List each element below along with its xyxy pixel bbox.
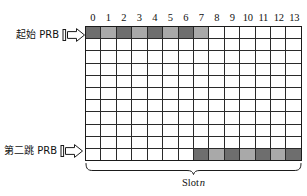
grid-cell-r7-c13 bbox=[286, 112, 300, 123]
grid-cell-r1-c13 bbox=[286, 39, 300, 50]
column-header-row: 0 1 2 3 4 5 6 7 8 9 10 11 12 13 bbox=[85, 11, 302, 25]
grid-cell-r0-c11 bbox=[256, 27, 271, 38]
grid-cell-r4-c3 bbox=[132, 76, 147, 87]
grid-cell-r6-c7 bbox=[194, 100, 209, 111]
grid-cell-r0-c8 bbox=[209, 27, 224, 38]
grid-cell-r3-c6 bbox=[179, 64, 194, 75]
grid-cell-r4-c9 bbox=[225, 76, 240, 87]
grid-row bbox=[86, 125, 301, 137]
grid-row bbox=[86, 27, 301, 39]
column-header-5: 5 bbox=[163, 11, 179, 25]
grid-cell-r8-c12 bbox=[271, 125, 286, 136]
grid-cell-r5-c1 bbox=[101, 88, 116, 99]
grid-cell-r4-c4 bbox=[148, 76, 163, 87]
grid-cell-r3-c12 bbox=[271, 64, 286, 75]
grid-cell-r9-c1 bbox=[101, 137, 116, 148]
grid-cell-r9-c7 bbox=[194, 137, 209, 148]
right-arrow-marker-icon bbox=[62, 27, 86, 43]
grid-cell-r0-c0 bbox=[86, 27, 101, 38]
grid-cell-r5-c8 bbox=[209, 88, 224, 99]
start-prb-label: 起始 PRB bbox=[16, 29, 59, 41]
grid-cell-r2-c4 bbox=[148, 51, 163, 62]
grid-cell-r1-c3 bbox=[132, 39, 147, 50]
grid-cell-r8-c10 bbox=[240, 125, 255, 136]
slot-caption-prefix: Slot bbox=[182, 177, 199, 188]
grid-cell-r6-c9 bbox=[225, 100, 240, 111]
grid-cell-r4-c5 bbox=[163, 76, 178, 87]
grid-cell-r0-c13 bbox=[286, 27, 300, 38]
grid-cell-r0-c10 bbox=[240, 27, 255, 38]
column-header-10: 10 bbox=[240, 11, 256, 25]
grid-cell-r2-c5 bbox=[163, 51, 178, 62]
grid-cell-r6-c8 bbox=[209, 100, 224, 111]
grid-cell-r8-c11 bbox=[256, 125, 271, 136]
grid-cell-r6-c12 bbox=[271, 100, 286, 111]
grid-cell-r4-c11 bbox=[256, 76, 271, 87]
grid-cell-r2-c0 bbox=[86, 51, 101, 62]
grid-cell-r10-c4 bbox=[148, 149, 163, 160]
grid-cell-r1-c7 bbox=[194, 39, 209, 50]
grid-cell-r2-c6 bbox=[179, 51, 194, 62]
grid-cell-r9-c12 bbox=[271, 137, 286, 148]
grid-cell-r7-c11 bbox=[256, 112, 271, 123]
grid-cell-r6-c3 bbox=[132, 100, 147, 111]
grid-cell-r7-c10 bbox=[240, 112, 255, 123]
grid-cell-r10-c5 bbox=[163, 149, 178, 160]
grid-cell-r0-c1 bbox=[101, 27, 116, 38]
bottom-brace-icon bbox=[85, 163, 302, 175]
grid-cell-r0-c6 bbox=[179, 27, 194, 38]
grid-cell-r10-c0 bbox=[86, 149, 101, 160]
grid-cell-r2-c12 bbox=[271, 51, 286, 62]
grid-cell-r2-c3 bbox=[132, 51, 147, 62]
grid-cell-r0-c12 bbox=[271, 27, 286, 38]
grid-cell-r1-c10 bbox=[240, 39, 255, 50]
grid-cell-r8-c6 bbox=[179, 125, 194, 136]
grid-row bbox=[86, 88, 301, 100]
grid-cell-r8-c13 bbox=[286, 125, 300, 136]
grid-cell-r6-c5 bbox=[163, 100, 178, 111]
grid-cell-r5-c0 bbox=[86, 88, 101, 99]
grid-cell-r7-c0 bbox=[86, 112, 101, 123]
grid-cell-r3-c1 bbox=[101, 64, 116, 75]
grid-cell-r10-c13 bbox=[286, 149, 300, 160]
grid-cell-r1-c6 bbox=[179, 39, 194, 50]
grid-row bbox=[86, 51, 301, 63]
grid-cell-r2-c13 bbox=[286, 51, 300, 62]
second-hop-prb-label: 第二跳 PRB bbox=[4, 145, 57, 157]
grid-cell-r3-c2 bbox=[117, 64, 132, 75]
grid-cell-r6-c1 bbox=[101, 100, 116, 111]
grid-cell-r7-c1 bbox=[101, 112, 116, 123]
grid-cell-r4-c8 bbox=[209, 76, 224, 87]
grid-cell-r4-c12 bbox=[271, 76, 286, 87]
grid-cell-r3-c8 bbox=[209, 64, 224, 75]
grid-cell-r5-c4 bbox=[148, 88, 163, 99]
grid-cell-r2-c7 bbox=[194, 51, 209, 62]
resource-grid bbox=[85, 26, 302, 161]
grid-cell-r5-c11 bbox=[256, 88, 271, 99]
grid-cell-r6-c11 bbox=[256, 100, 271, 111]
grid-cell-r10-c2 bbox=[117, 149, 132, 160]
grid-cell-r4-c7 bbox=[194, 76, 209, 87]
grid-cell-r8-c8 bbox=[209, 125, 224, 136]
grid-cell-r3-c0 bbox=[86, 64, 101, 75]
grid-cell-r10-c12 bbox=[271, 149, 286, 160]
grid-cell-r10-c1 bbox=[101, 149, 116, 160]
grid-cell-r5-c12 bbox=[271, 88, 286, 99]
grid-cell-r8-c5 bbox=[163, 125, 178, 136]
grid-cell-r6-c0 bbox=[86, 100, 101, 111]
grid-cell-r3-c10 bbox=[240, 64, 255, 75]
grid-cell-r2-c8 bbox=[209, 51, 224, 62]
grid-cell-r10-c9 bbox=[225, 149, 240, 160]
grid-cell-r5-c3 bbox=[132, 88, 147, 99]
grid-cell-r5-c13 bbox=[286, 88, 300, 99]
grid-cell-r6-c6 bbox=[179, 100, 194, 111]
grid-cell-r8-c0 bbox=[86, 125, 101, 136]
column-header-9: 9 bbox=[225, 11, 241, 25]
grid-cell-r7-c12 bbox=[271, 112, 286, 123]
grid-cell-r0-c3 bbox=[132, 27, 147, 38]
column-header-12: 12 bbox=[271, 11, 287, 25]
grid-cell-r1-c1 bbox=[101, 39, 116, 50]
grid-cell-r1-c8 bbox=[209, 39, 224, 50]
column-header-7: 7 bbox=[194, 11, 210, 25]
grid-cell-r7-c6 bbox=[179, 112, 194, 123]
